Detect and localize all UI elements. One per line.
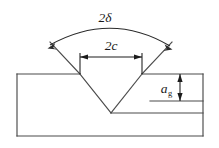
reference-lines xyxy=(111,101,203,113)
bevel-ray-left xyxy=(50,42,80,74)
root-depth-subscript-label: g xyxy=(168,88,173,98)
groove-width-arrow-right-icon xyxy=(134,54,142,59)
groove-angle-label: 2δ xyxy=(98,10,112,25)
groove-width-dimension: 2c xyxy=(80,38,142,74)
plate-outline xyxy=(17,74,203,136)
groove-right-flank xyxy=(111,74,142,113)
v-groove xyxy=(80,74,142,113)
root-depth-arrow-bottom-icon xyxy=(177,93,182,101)
root-depth-arrow-top-icon xyxy=(177,74,182,82)
weld-groove-diagram: 2δ 2c a g xyxy=(0,0,219,148)
root-depth-dimension: a g xyxy=(161,74,183,101)
root-depth-label: a xyxy=(161,81,168,96)
groove-width-label: 2c xyxy=(105,38,118,53)
groove-left-flank xyxy=(80,74,111,113)
weld-groove-figure: 2δ 2c a g xyxy=(0,0,219,148)
groove-width-arrow-left-icon xyxy=(80,54,88,59)
